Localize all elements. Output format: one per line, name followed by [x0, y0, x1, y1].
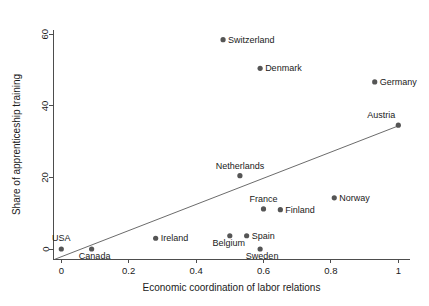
data-point-marker[interactable] — [332, 195, 337, 200]
data-point-marker[interactable] — [244, 233, 249, 238]
plot-canvas: 0204060 00.20.40.60.81 USACanadaIrelandB… — [0, 0, 429, 306]
data-point-label: Belgium — [213, 238, 246, 248]
data-point-label: Sweden — [246, 251, 279, 261]
data-point-label: Ireland — [161, 233, 189, 243]
data-point-label: USA — [52, 233, 71, 243]
data-point-marker[interactable] — [153, 236, 158, 241]
data-point-label: Denmark — [265, 63, 302, 73]
data-point-marker[interactable] — [278, 207, 283, 212]
data-point-label: Germany — [380, 77, 418, 87]
data-point-marker[interactable] — [258, 66, 263, 71]
data-point-marker[interactable] — [237, 173, 242, 178]
data-point-marker[interactable] — [372, 79, 377, 84]
y-tick-label: 60 — [40, 29, 51, 40]
data-point-label: Spain — [252, 231, 275, 241]
y-axis-ticks: 0204060 — [40, 29, 54, 252]
x-tick-label: 0.4 — [189, 265, 202, 276]
x-tick-label: 0 — [59, 265, 64, 276]
x-axis-title: Economic coordination of labor relations — [143, 282, 321, 293]
data-point-label: Canada — [79, 251, 111, 261]
data-point-marker[interactable] — [396, 123, 401, 128]
data-points-group: USACanadaIrelandBelgiumSpainSwedenNether… — [52, 35, 417, 261]
data-point-marker[interactable] — [261, 206, 266, 211]
data-point-label: Austria — [367, 110, 395, 120]
scatter-plot-figure: 0204060 00.20.40.60.81 USACanadaIrelandB… — [0, 0, 429, 306]
data-point-marker[interactable] — [59, 246, 64, 251]
data-point-marker[interactable] — [220, 37, 225, 42]
data-point-label: Finland — [285, 205, 315, 215]
y-tick-label: 0 — [40, 246, 51, 251]
data-point-label: Switzerland — [228, 35, 275, 45]
x-axis-ticks: 00.20.40.60.81 — [59, 259, 401, 276]
y-tick-label: 40 — [40, 101, 51, 112]
data-point-label: Norway — [339, 193, 370, 203]
x-tick-label: 0.6 — [257, 265, 270, 276]
data-point-label: Netherlands — [216, 161, 265, 171]
y-tick-label: 20 — [40, 172, 51, 183]
y-axis-title: Share of apprenticeship training — [11, 74, 22, 215]
axes-group — [53, 30, 410, 259]
x-tick-label: 1 — [396, 265, 401, 276]
x-tick-label: 0.2 — [122, 265, 135, 276]
data-point-label: France — [249, 194, 277, 204]
x-tick-label: 0.8 — [324, 265, 337, 276]
